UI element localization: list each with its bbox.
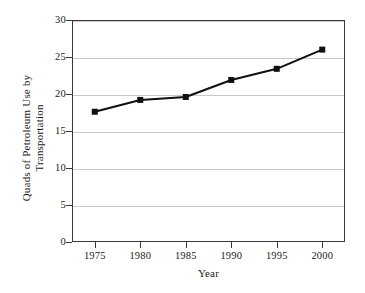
data-series-layer bbox=[72, 20, 345, 242]
y-axis-title-box: Quads of Petroleum Use by Transportation bbox=[0, 0, 66, 293]
data-point-marker bbox=[319, 47, 325, 53]
y-tick-mark bbox=[66, 205, 72, 206]
x-axis-title: Year bbox=[72, 267, 345, 279]
series-markers bbox=[92, 47, 326, 115]
x-tick-label: 1980 bbox=[118, 250, 162, 261]
x-tick-label: 1990 bbox=[209, 250, 253, 261]
x-tick-label: 2000 bbox=[300, 250, 344, 261]
data-point-marker bbox=[274, 66, 280, 72]
y-tick-mark bbox=[66, 94, 72, 95]
data-point-marker bbox=[92, 109, 98, 115]
x-tick-mark bbox=[186, 242, 187, 248]
y-tick-mark bbox=[66, 168, 72, 169]
x-tick-mark bbox=[322, 242, 323, 248]
y-tick-mark bbox=[66, 57, 72, 58]
data-point-marker bbox=[137, 97, 143, 103]
y-tick-mark bbox=[66, 131, 72, 132]
data-point-marker bbox=[183, 94, 189, 100]
x-tick-mark bbox=[277, 242, 278, 248]
x-tick-label: 1975 bbox=[73, 250, 117, 261]
x-tick-label: 1995 bbox=[255, 250, 299, 261]
x-tick-mark bbox=[231, 242, 232, 248]
y-tick-mark bbox=[66, 242, 72, 243]
y-tick-mark bbox=[66, 20, 72, 21]
x-tick-mark bbox=[140, 242, 141, 248]
petroleum-use-line-chart: 30 25 20 15 10 5 0 197519801985199019952… bbox=[0, 0, 365, 293]
y-axis-title: Quads of Petroleum Use by Transportation bbox=[20, 27, 46, 249]
x-tick-label: 1985 bbox=[164, 250, 208, 261]
data-point-marker bbox=[228, 77, 234, 83]
series-line bbox=[95, 50, 323, 112]
x-tick-mark bbox=[95, 242, 96, 248]
